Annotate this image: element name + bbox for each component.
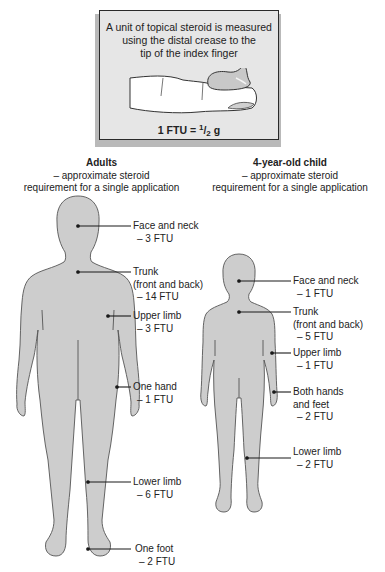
adult-label-one-foot: One foot – 2 FTU xyxy=(135,543,175,568)
child-label-face-neck: Face and neck – 1 FTU xyxy=(293,275,359,300)
adult-body-silhouette xyxy=(17,196,140,556)
label-name: Lower limb xyxy=(293,446,341,459)
label-value: – 3 FTU xyxy=(133,233,199,246)
label-name: One hand xyxy=(133,381,177,394)
label-value: – 1 FTU xyxy=(293,360,341,373)
label-value: – 3 FTU xyxy=(133,323,181,336)
adult-label-upper-limb: Upper limb – 3 FTU xyxy=(133,310,181,335)
label-value: – 6 FTU xyxy=(133,489,181,502)
label-name: Upper limb xyxy=(133,310,181,323)
adult-label-trunk: Trunk (front and back) – 14 FTU xyxy=(133,266,203,304)
label-name: Face and neck xyxy=(293,275,359,288)
label-value: – 5 FTU xyxy=(293,331,363,344)
label-value: – 1 FTU xyxy=(293,288,359,301)
child-label-trunk: Trunk (front and back) – 5 FTU xyxy=(293,306,363,344)
label-value: – 1 FTU xyxy=(133,394,177,407)
label-value: – 2 FTU xyxy=(293,411,344,424)
label-name: One foot xyxy=(135,543,175,556)
child-label-lower-limb: Lower limb – 2 FTU xyxy=(293,446,341,471)
adult-label-one-hand: One hand – 1 FTU xyxy=(133,381,177,406)
label-name: Both hands xyxy=(293,386,344,399)
label-name: Face and neck xyxy=(133,220,199,233)
label-extra: (front and back) xyxy=(293,319,363,332)
adult-label-face-neck: Face and neck – 3 FTU xyxy=(133,220,199,245)
label-name: Upper limb xyxy=(293,347,341,360)
label-value: – 14 FTU xyxy=(133,291,203,304)
label-extra: and feet xyxy=(293,399,344,412)
label-name: Trunk xyxy=(293,306,363,319)
adult-label-lower-limb: Lower limb – 6 FTU xyxy=(133,476,181,501)
label-extra: (front and back) xyxy=(133,279,203,292)
label-value: – 2 FTU xyxy=(135,556,175,569)
label-value: – 2 FTU xyxy=(293,459,341,472)
child-label-upper-limb: Upper limb – 1 FTU xyxy=(293,347,341,372)
child-label-hands-feet: Both hands and feet – 2 FTU xyxy=(293,386,344,424)
label-name: Trunk xyxy=(133,266,203,279)
child-body-silhouette xyxy=(201,254,278,512)
label-name: Lower limb xyxy=(133,476,181,489)
